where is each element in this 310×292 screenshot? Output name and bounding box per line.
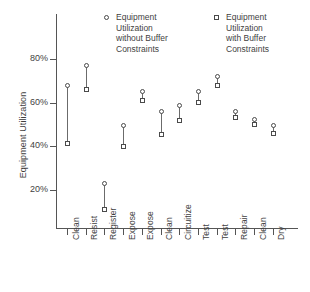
x-axis-tick-label: Clean [164,217,174,240]
x-axis-tick-label: Clean [258,217,268,240]
y-axis-tick [50,103,57,104]
x-axis-tick-label: Resist [89,216,99,240]
data-point-without-buffer [215,74,220,79]
y-axis-tick-label: 40% [0,140,48,150]
x-axis-tick-label: Register [108,208,118,240]
y-axis-line [56,14,57,229]
y-axis-tick-label: 20% [0,184,48,194]
y-axis-tick-label: 60% [0,97,48,107]
data-point-with-buffer [102,207,107,212]
x-axis-tick [198,228,199,235]
x-axis-tick-label: Test [220,224,230,240]
data-point-without-buffer [159,109,164,114]
data-point-without-buffer [233,109,238,114]
data-point-with-buffer [121,144,126,149]
x-axis-tick-label: Expose [145,211,155,240]
x-axis-tick [273,228,274,235]
x-axis-tick [235,228,236,235]
chart-container: Equipment Utilization 20%40%60%80% Clean… [0,0,310,292]
connector-line [67,85,68,143]
x-axis-tick [142,228,143,235]
legend-label-line: Utilization [226,23,309,34]
legend-entry-with-buffer: Equipment Utilization with Buffer Constr… [214,12,309,54]
legend-label-line: Constraints [116,44,204,55]
y-axis-tick [50,190,57,191]
data-point-without-buffer [102,181,107,186]
legend-label-line: Constraints [226,44,309,55]
data-point-with-buffer [252,122,257,127]
x-axis-tick-label: Dry [276,226,286,240]
legend-row: Equipment Utilization without Buffer Con… [104,12,204,54]
x-axis-tick [123,228,124,235]
data-point-with-buffer [233,115,238,120]
data-point-with-buffer [177,118,182,123]
legend-label-line: with Buffer [226,33,309,44]
circle-marker-icon [104,15,109,20]
legend-entry-without-buffer: Equipment Utilization without Buffer Con… [104,12,204,54]
data-point-without-buffer [271,123,276,128]
data-point-with-buffer [159,132,164,137]
x-axis-tick [104,228,105,235]
legend-label-line: without Buffer [116,33,204,44]
data-point-without-buffer [65,83,70,88]
data-point-with-buffer [84,87,89,92]
connector-line [86,66,87,90]
y-axis-tick [50,59,57,60]
x-axis-tick [86,228,87,235]
x-axis-tick [254,228,255,235]
x-axis-tick [217,228,218,235]
x-axis-tick-label: Circuitize [183,204,193,240]
legend-label-line: Equipment [226,12,309,23]
x-axis-tick-label: Clean [71,217,81,240]
connector-line [104,183,105,209]
data-point-without-buffer [252,117,257,122]
legend-label-line: Utilization [116,23,204,34]
data-point-with-buffer [65,141,70,146]
legend-label-line: Equipment [116,12,204,23]
legend-row: Equipment Utilization with Buffer Constr… [214,12,309,54]
data-point-without-buffer [196,89,201,94]
data-point-with-buffer [215,83,220,88]
data-point-without-buffer [84,63,89,68]
square-marker-icon [214,15,219,20]
x-axis-tick-label: Expose [127,211,137,240]
data-point-without-buffer [121,123,126,128]
x-axis-tick-label: Repair [239,214,249,240]
data-point-with-buffer [196,100,201,105]
x-axis-tick-label: Test [201,224,211,240]
x-axis-tick [161,228,162,235]
data-point-with-buffer [140,98,145,103]
y-axis-tick [50,146,57,147]
x-axis-tick [179,228,180,235]
y-axis-tick-label: 80% [0,53,48,63]
data-point-without-buffer [140,89,145,94]
data-point-with-buffer [271,131,276,136]
x-axis-tick [67,228,68,235]
data-point-without-buffer [177,103,182,108]
